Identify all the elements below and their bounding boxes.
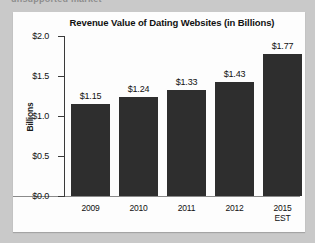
bar-rect[interactable] <box>71 104 110 196</box>
plot-area: $0.0$0.5$1.0$1.5$2.0 $1.152009$1.242010$… <box>64 36 300 196</box>
bar-series: $1.152009$1.242010$1.332011$1.432012$1.7… <box>64 36 300 197</box>
bar-rect[interactable] <box>263 54 302 196</box>
x-axis-category-label: 2011 <box>178 203 195 213</box>
bar-value-label: $1.33 <box>176 77 198 87</box>
bar-item[interactable]: $1.242010 <box>119 97 158 196</box>
clipped-header-strip: unsupported market <box>0 0 315 9</box>
y-axis-tick-label: $0.5 <box>32 151 49 161</box>
x-axis-category-label: 2010 <box>129 203 147 213</box>
y-axis-tick-label: $1.0 <box>32 111 49 121</box>
x-axis-category-label: 2012 <box>225 203 243 213</box>
bar-item[interactable]: $1.432012 <box>215 82 254 196</box>
y-axis-tick-label: $1.5 <box>32 71 49 81</box>
chart-title: Revenue Value of Dating Websites (in Bil… <box>43 17 301 28</box>
y-axis-tick-label: $2.0 <box>32 31 49 41</box>
bar-item[interactable]: $1.332011 <box>167 90 206 196</box>
clipped-header-text: unsupported market <box>11 0 102 4</box>
bar-item[interactable]: $1.152009 <box>71 104 110 196</box>
bar-value-label: $1.43 <box>224 69 246 79</box>
chart-panel: Revenue Value of Dating Websites (in Bil… <box>13 12 305 232</box>
x-axis-category-label: 2015 EST <box>273 203 291 223</box>
x-axis-category-label: 2009 <box>81 203 99 213</box>
bar-rect[interactable] <box>119 97 158 196</box>
bar-value-label: $1.77 <box>272 41 294 51</box>
bar-value-label: $1.15 <box>80 91 102 101</box>
bar-rect[interactable] <box>167 90 206 196</box>
bar-value-label: $1.24 <box>128 84 150 94</box>
y-axis-tick-label: $0.0 <box>32 191 49 201</box>
bar-item[interactable]: $1.772015 EST <box>263 54 302 196</box>
bar-rect[interactable] <box>215 82 254 196</box>
